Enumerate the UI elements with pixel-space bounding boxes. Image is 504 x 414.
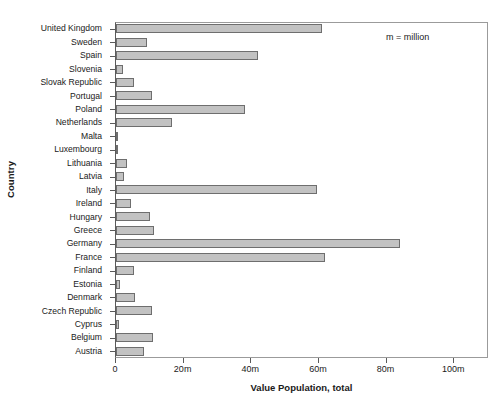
bar bbox=[116, 239, 400, 248]
y-axis-tick-label: Finland bbox=[18, 264, 106, 277]
x-axis-title: Value Population, total bbox=[115, 382, 488, 393]
bar bbox=[116, 145, 118, 154]
y-axis-tick-label: France bbox=[18, 250, 106, 263]
y-axis-tick-label: Estonia bbox=[18, 277, 106, 290]
bar bbox=[116, 266, 134, 275]
y-axis-tick-label: Austria bbox=[18, 345, 106, 358]
bar bbox=[116, 293, 135, 302]
y-axis-tick-label: Slovak Republic bbox=[18, 76, 106, 89]
bar bbox=[116, 226, 154, 235]
unit-annotation: m = million bbox=[386, 32, 429, 42]
x-axis-tick-mark bbox=[318, 358, 319, 363]
bar bbox=[116, 118, 172, 127]
bar-row bbox=[116, 183, 488, 196]
x-axis-tick-mark bbox=[453, 358, 454, 363]
bar bbox=[116, 347, 144, 356]
x-axis-tick-mark bbox=[183, 358, 184, 363]
bar-row bbox=[116, 116, 488, 129]
x-axis-tick-mark bbox=[250, 358, 251, 363]
y-axis-tick-label: Denmark bbox=[18, 291, 106, 304]
bar-row bbox=[116, 103, 488, 116]
bar-row bbox=[116, 237, 488, 250]
y-axis-tick-label: Lithuania bbox=[18, 156, 106, 169]
bar-row bbox=[116, 170, 488, 183]
x-axis-tick-label: 100m bbox=[442, 364, 465, 374]
y-axis-tick-label: Sweden bbox=[18, 35, 106, 48]
bar bbox=[116, 65, 123, 74]
y-axis-tick-label: Greece bbox=[18, 224, 106, 237]
bar-row bbox=[116, 130, 488, 143]
bar-row bbox=[116, 291, 488, 304]
y-axis-tick-label: Netherlands bbox=[18, 116, 106, 129]
bar bbox=[116, 199, 131, 208]
bar-row bbox=[116, 197, 488, 210]
bar-row bbox=[116, 224, 488, 237]
bar-row bbox=[116, 331, 488, 344]
y-axis-tick-label: Germany bbox=[18, 237, 106, 250]
bar bbox=[116, 253, 325, 262]
bar bbox=[116, 159, 127, 168]
bar-row bbox=[116, 210, 488, 223]
bar bbox=[116, 212, 150, 221]
x-axis-tick-label: 60m bbox=[309, 364, 327, 374]
bar-row bbox=[116, 277, 488, 290]
bar-row bbox=[116, 49, 488, 62]
bar bbox=[116, 132, 118, 141]
y-axis-tick-label: Cyprus bbox=[18, 318, 106, 331]
bar bbox=[116, 105, 245, 114]
y-axis-tick-label: Italy bbox=[18, 183, 106, 196]
bar-row bbox=[116, 89, 488, 102]
x-axis-tick-mark bbox=[115, 358, 116, 363]
bar bbox=[116, 51, 258, 60]
bar-row bbox=[116, 62, 488, 75]
population-bar-chart: Country United KingdomSwedenSpainSloveni… bbox=[0, 0, 504, 414]
bar bbox=[116, 91, 152, 100]
bar bbox=[116, 333, 153, 342]
bar-row bbox=[116, 318, 488, 331]
y-axis-tick-label: Malta bbox=[18, 130, 106, 143]
y-axis-tick-labels: United KingdomSwedenSpainSloveniaSlovak … bbox=[18, 22, 106, 358]
y-axis-tick-label: Luxembourg bbox=[18, 143, 106, 156]
bars-container bbox=[116, 22, 488, 358]
y-axis-tick-label: Ireland bbox=[18, 197, 106, 210]
y-axis-tick-label: Portugal bbox=[18, 89, 106, 102]
bar bbox=[116, 78, 134, 87]
bar bbox=[116, 306, 152, 315]
y-axis-tick-label: Hungary bbox=[18, 210, 106, 223]
x-axis-tick-mark bbox=[386, 358, 387, 363]
x-axis-tick-label: 80m bbox=[377, 364, 395, 374]
bar-row bbox=[116, 35, 488, 48]
y-axis-tick-label: Belgium bbox=[18, 331, 106, 344]
x-axis-tick-label: 0 bbox=[112, 364, 117, 374]
bar-row bbox=[116, 250, 488, 263]
bar bbox=[116, 185, 317, 194]
bar-row bbox=[116, 76, 488, 89]
x-axis-tick-labels: 020m40m60m80m100m bbox=[0, 364, 504, 378]
y-axis-tick-label: United Kingdom bbox=[18, 22, 106, 35]
y-axis-tick-label: Latvia bbox=[18, 170, 106, 183]
bar bbox=[116, 24, 322, 33]
x-axis-tick-label: 40m bbox=[242, 364, 260, 374]
y-axis-tick-label: Spain bbox=[18, 49, 106, 62]
bar-row bbox=[116, 143, 488, 156]
y-axis-title-text: Country bbox=[6, 160, 17, 197]
y-axis-tick-label: Czech Republic bbox=[18, 304, 106, 317]
y-axis-tick-label: Poland bbox=[18, 103, 106, 116]
bar-row bbox=[116, 304, 488, 317]
bar-row bbox=[116, 345, 488, 358]
bar bbox=[116, 38, 147, 47]
bar-row bbox=[116, 22, 488, 35]
y-axis-tick-label: Slovenia bbox=[18, 62, 106, 75]
bar bbox=[116, 172, 124, 181]
bar bbox=[116, 280, 120, 289]
bar bbox=[116, 320, 119, 329]
bar-row bbox=[116, 156, 488, 169]
x-axis-tick-label: 20m bbox=[174, 364, 192, 374]
bar-row bbox=[116, 264, 488, 277]
